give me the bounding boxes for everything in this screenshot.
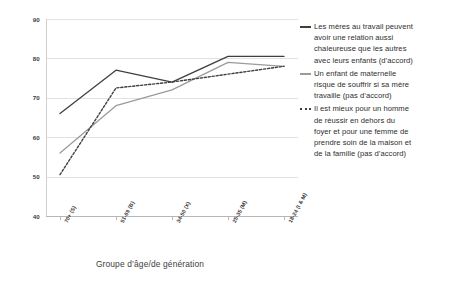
legend-label-line: chaleureuse que les autres — [314, 43, 462, 54]
legend-label-line: foyer et pour une femme de — [314, 126, 462, 137]
legend-label-line: de la famille (pas d’accord) — [314, 148, 462, 159]
legend-label-line: Un enfant de maternelle — [314, 68, 462, 79]
legend-line-solid-gray-icon — [300, 73, 311, 75]
legend-entry-3[interactable]: Il est mieux pour un hommede réussir en … — [300, 103, 462, 159]
legend-label-line: avoir une relation aussi — [314, 32, 462, 43]
legend-label-line: travaille (pas d’accord) — [314, 90, 462, 101]
legend-line-solid-dark-icon — [300, 26, 311, 28]
legend-entry-1[interactable]: Les mères au travail peuventavoir une re… — [300, 21, 462, 66]
plot-area: 405060708090 70+ (S)51-69 (B)34-50 (X)25… — [0, 0, 300, 285]
legend-label-line: de réussir en dehors du — [314, 115, 462, 126]
legend-line-dashed-icon — [300, 108, 311, 110]
x-axis-tick — [116, 216, 117, 220]
series-line-2 — [60, 62, 284, 153]
legend-label-line: Les mères au travail peuvent — [314, 21, 462, 32]
legend-label-line: risque de souffrir si sa mère — [314, 79, 462, 90]
legend-label-line: prendre soin de la maison et — [314, 137, 462, 148]
x-axis-tick — [284, 216, 285, 220]
x-axis-tick — [228, 216, 229, 220]
legend-label-line: avec leurs enfants (d’accord) — [314, 55, 462, 66]
series-line-1 — [60, 56, 284, 113]
series-lines-group — [0, 0, 300, 285]
x-axis-title: Groupe d’âge/de génération — [0, 259, 300, 269]
x-axis-tick — [172, 216, 173, 220]
chart-legend: Les mères au travail peuventavoir une re… — [300, 21, 462, 161]
legend-entry-2[interactable]: Un enfant de maternellerisque de souffri… — [300, 68, 462, 102]
x-axis-tick — [60, 216, 61, 220]
line-chart: 405060708090 70+ (S)51-69 (B)34-50 (X)25… — [0, 0, 462, 285]
legend-label-line: Il est mieux pour un homme — [314, 103, 462, 114]
